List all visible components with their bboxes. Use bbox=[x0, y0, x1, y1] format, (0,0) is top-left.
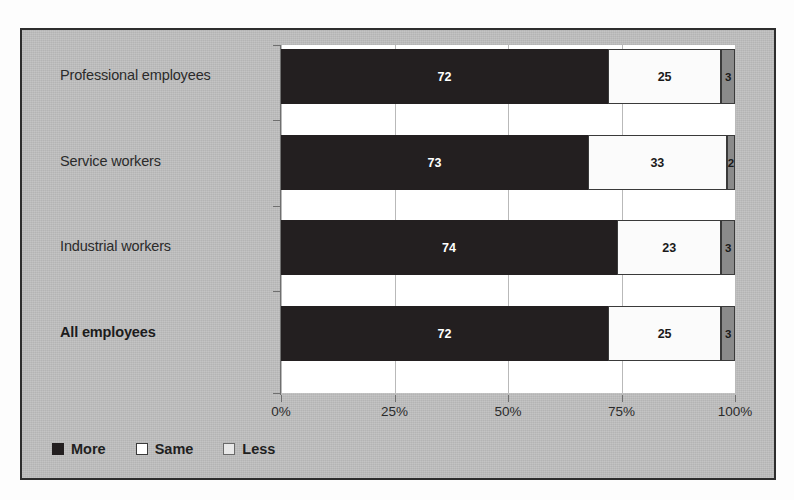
x-axis-label-75%: 75% bbox=[608, 404, 635, 419]
legend-item-more[interactable]: More bbox=[52, 441, 106, 457]
y-tick-4 bbox=[273, 393, 281, 394]
bar-segment-same: 25 bbox=[608, 49, 722, 104]
bar-value-label: 33 bbox=[650, 156, 664, 170]
chart-legend: MoreSameLess bbox=[22, 434, 774, 464]
bar-segment-less: 3 bbox=[721, 220, 735, 275]
legend-item-less[interactable]: Less bbox=[223, 441, 275, 457]
legend-label: Same bbox=[155, 441, 194, 457]
bar-track: 72253 bbox=[281, 49, 735, 104]
chart-frame: Professional employeesService workersInd… bbox=[20, 28, 776, 480]
bar-row-3: 72253 bbox=[281, 306, 735, 361]
legend-label: Less bbox=[242, 441, 275, 457]
bar-row-2: 74233 bbox=[281, 220, 735, 275]
x-axis-label-0%: 0% bbox=[271, 404, 291, 419]
chart-plot-wrapper: Professional employeesService workersInd… bbox=[22, 30, 774, 478]
x-axis-label-50%: 50% bbox=[494, 404, 521, 419]
y-tick-2 bbox=[273, 206, 281, 207]
bar-row-1: 73332 bbox=[281, 135, 735, 190]
bar-segment-more: 74 bbox=[281, 220, 617, 275]
bar-track: 72253 bbox=[281, 306, 735, 361]
bar-value-label: 72 bbox=[437, 327, 451, 341]
bar-value-label: 3 bbox=[725, 242, 731, 254]
bar-value-label: 73 bbox=[427, 156, 441, 170]
x-axis-label-100%: 100% bbox=[718, 404, 753, 419]
bar-segment-less: 3 bbox=[721, 306, 735, 361]
category-label-0: Professional employees bbox=[60, 67, 270, 83]
legend-swatch-same-icon bbox=[136, 443, 148, 455]
legend-swatch-more-icon bbox=[52, 443, 64, 455]
bar-value-label: 25 bbox=[658, 70, 672, 84]
category-label-3: All employees bbox=[60, 324, 270, 340]
bar-value-label: 25 bbox=[658, 327, 672, 341]
bar-segment-same: 23 bbox=[617, 220, 721, 275]
legend-item-same[interactable]: Same bbox=[136, 441, 194, 457]
bar-value-label: 72 bbox=[437, 70, 451, 84]
bar-track: 74233 bbox=[281, 220, 735, 275]
bar-row-0: 72253 bbox=[281, 49, 735, 104]
x-axis-label-25%: 25% bbox=[381, 404, 408, 419]
bar-value-label: 3 bbox=[725, 328, 731, 340]
bar-segment-more: 72 bbox=[281, 49, 608, 104]
bar-segment-same: 33 bbox=[588, 135, 727, 190]
bar-segment-more: 72 bbox=[281, 306, 608, 361]
y-tick-1 bbox=[273, 120, 281, 121]
bar-segment-less: 2 bbox=[727, 135, 735, 190]
x-tick-0% bbox=[281, 395, 282, 402]
y-tick-3 bbox=[273, 291, 281, 292]
x-tick-25% bbox=[395, 395, 396, 402]
x-tick-100% bbox=[735, 395, 736, 402]
y-tick-0 bbox=[273, 45, 281, 46]
bar-value-label: 74 bbox=[442, 241, 456, 255]
category-label-2: Industrial workers bbox=[60, 238, 270, 254]
x-tick-50% bbox=[508, 395, 509, 402]
legend-swatch-less-icon bbox=[223, 443, 235, 455]
gridline-100% bbox=[735, 45, 736, 393]
legend-label: More bbox=[71, 441, 106, 457]
bar-value-label: 2 bbox=[728, 157, 734, 169]
bar-segment-same: 25 bbox=[608, 306, 722, 361]
bar-track: 73332 bbox=[281, 135, 735, 190]
category-label-1: Service workers bbox=[60, 153, 270, 169]
bar-value-label: 3 bbox=[725, 71, 731, 83]
bar-segment-less: 3 bbox=[721, 49, 735, 104]
bar-value-label: 23 bbox=[662, 241, 676, 255]
x-tick-75% bbox=[622, 395, 623, 402]
bar-segment-more: 73 bbox=[281, 135, 588, 190]
